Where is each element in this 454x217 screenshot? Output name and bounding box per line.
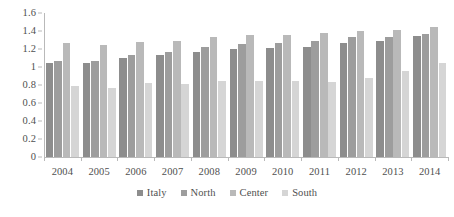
legend-swatch-icon [282,190,288,196]
bar-group-2010 [264,13,301,157]
bar-center-2009 [246,35,254,157]
legend-label: Italy [147,188,167,199]
legend-item-center[interactable]: Center [230,188,269,199]
bar-north-2011 [311,41,319,157]
x-axis-tick-labels: 2004200520062007200820092010201120122013… [44,163,448,181]
bar-group-2007 [154,13,191,157]
bar-south-2009 [255,81,263,158]
x-axis-tick-mark [301,157,302,161]
bar-south-2012 [365,78,373,157]
y-axis-tick-label: 0.4 [23,116,36,127]
legend-swatch-icon [137,190,143,196]
bar-center-2007 [173,41,181,157]
y-axis-tick-mark [38,157,42,158]
bar-italy-2008 [193,52,201,157]
legend-label: South [292,188,317,199]
bar-north-2010 [275,43,283,157]
x-axis-tick-label-2011: 2011 [301,163,338,181]
x-axis-tick-mark [81,157,82,161]
plot-area [44,13,448,157]
legend-item-north[interactable]: North [181,188,216,199]
bar-italy-2010 [266,48,274,157]
bar-center-2014 [430,27,438,158]
x-axis-tick-label-2008: 2008 [191,163,228,181]
x-axis-tick-label-2013: 2013 [375,163,412,181]
legend-item-italy[interactable]: Italy [137,188,167,199]
y-axis-tick-label: 1.6 [23,8,36,19]
x-axis-tick-marks [44,157,448,162]
bar-italy-2009 [230,49,238,157]
x-axis-tick-label-2007: 2007 [154,163,191,181]
bar-north-2004 [54,61,62,157]
bar-group-2006 [117,13,154,157]
bar-south-2011 [328,82,336,157]
x-axis-tick-label-2006: 2006 [117,163,154,181]
y-axis-tick-labels: 00.20.40.60.811.21.41.6 [0,13,44,157]
bar-italy-2013 [376,41,384,157]
bar-group-2008 [191,13,228,157]
x-axis-tick-mark [448,157,449,161]
legend-item-south[interactable]: South [282,188,317,199]
y-axis-tick-mark [38,139,42,140]
bar-north-2009 [238,44,246,157]
y-axis-tick-label: 1.2 [23,44,36,55]
bar-north-2007 [165,52,173,157]
x-axis-tick-label-2010: 2010 [264,163,301,181]
bar-groups [44,13,448,157]
y-axis-tick-label: 1 [31,62,36,73]
legend-swatch-icon [230,190,236,196]
bar-south-2007 [181,84,189,157]
legend-label: Center [240,188,269,199]
bar-center-2012 [357,31,365,157]
y-axis-tick-mark [38,49,42,50]
x-axis-tick-mark [117,157,118,161]
x-axis-tick-mark [191,157,192,161]
x-axis-tick-label-2009: 2009 [228,163,265,181]
bar-south-2010 [292,81,300,157]
x-axis-tick-label-2014: 2014 [411,163,448,181]
y-axis-tick-mark [38,103,42,104]
bar-center-2005 [100,45,108,158]
bar-italy-2006 [119,58,127,157]
x-axis-tick-label-2012: 2012 [338,163,375,181]
bar-north-2013 [385,37,393,157]
bar-italy-2005 [83,63,91,158]
bar-center-2004 [63,43,71,157]
x-axis-tick-mark [375,157,376,161]
bar-south-2006 [145,83,153,157]
y-axis-tick-mark [38,85,42,86]
x-axis-tick-mark [154,157,155,161]
bar-south-2005 [108,88,116,157]
bar-group-2005 [81,13,118,157]
legend-swatch-icon [181,190,187,196]
bar-south-2004 [71,86,79,157]
bar-group-2012 [338,13,375,157]
bar-italy-2004 [46,63,54,158]
bar-group-2004 [44,13,81,157]
bar-group-2011 [301,13,338,157]
x-axis-tick-label-2004: 2004 [44,163,81,181]
bar-italy-2012 [340,43,348,157]
x-axis-tick-mark [338,157,339,161]
bar-italy-2014 [413,36,421,157]
bar-group-2014 [411,13,448,157]
x-axis-tick-label-2005: 2005 [81,163,118,181]
bar-chart: 00.20.40.60.811.21.41.6 2004200520062007… [0,0,454,217]
bar-north-2006 [128,55,136,157]
y-axis-tick-label: 1.4 [23,26,36,37]
y-axis-tick-mark [38,67,42,68]
chart-legend: ItalyNorthCenterSouth [0,188,454,199]
bar-center-2013 [393,30,401,157]
bar-south-2013 [402,71,410,157]
bar-italy-2007 [156,55,164,157]
y-axis-tick-label: 0.2 [23,134,36,145]
bar-north-2012 [348,37,356,157]
bar-north-2014 [422,34,430,157]
y-axis-tick-label: 0 [31,152,36,163]
y-axis-tick-label: 0.8 [23,80,36,91]
bar-italy-2011 [303,47,311,157]
bar-south-2014 [439,63,447,158]
y-axis-tick-mark [38,121,42,122]
bar-center-2010 [283,35,291,157]
bar-center-2008 [210,37,218,157]
